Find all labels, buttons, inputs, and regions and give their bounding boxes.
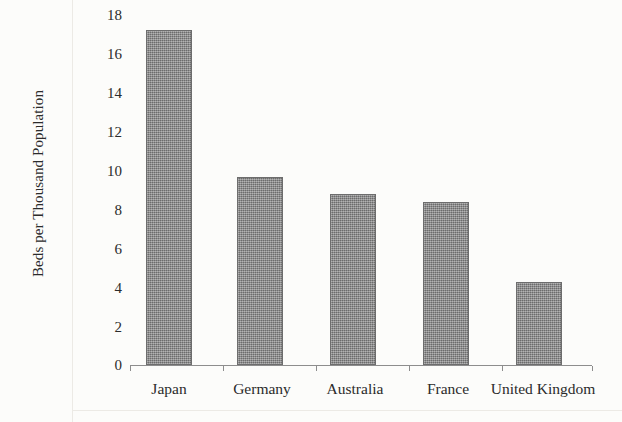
y-tick-label-6: 6 — [86, 241, 122, 258]
x-label-germany: Germany — [233, 380, 291, 398]
y-tick-label-14: 14 — [86, 85, 122, 102]
bar-chart-figure: Beds per Thousand Population 18 16 14 12… — [0, 0, 622, 422]
y-axis-title: Beds per Thousand Population — [30, 34, 47, 334]
y-tick-label-2: 2 — [86, 319, 122, 336]
bar-japan[interactable] — [146, 30, 192, 365]
bar-australia[interactable] — [330, 194, 376, 365]
y-tick-label-10: 10 — [86, 163, 122, 180]
x-axis-category-labels: Japan Germany Australia France United Ki… — [0, 380, 622, 404]
bar-france[interactable] — [423, 202, 469, 365]
x-label-united-kingdom: United Kingdom — [491, 380, 596, 398]
x-label-france: France — [427, 380, 469, 398]
y-tick-label-4: 4 — [86, 280, 122, 297]
x-axis-tick-2 — [316, 366, 317, 371]
x-label-japan: Japan — [151, 380, 186, 398]
y-tick-label-18: 18 — [86, 7, 122, 24]
x-axis-tick-4 — [502, 366, 503, 371]
x-axis-baseline — [130, 365, 592, 366]
x-axis-tick-5 — [592, 366, 593, 371]
x-label-australia: Australia — [327, 380, 384, 398]
bar-germany[interactable] — [237, 177, 283, 365]
y-tick-label-12: 12 — [86, 124, 122, 141]
bar-united-kingdom[interactable] — [516, 282, 562, 365]
x-axis-tick-1 — [223, 366, 224, 371]
page-frame-left-edge — [72, 0, 73, 422]
y-axis-tick-labels: 18 16 14 12 10 8 6 4 2 0 — [82, 0, 122, 422]
page-frame-bottom-edge — [72, 410, 622, 411]
x-axis-tick-3 — [409, 366, 410, 371]
x-axis-tick-0 — [130, 366, 131, 371]
y-tick-label-8: 8 — [86, 202, 122, 219]
y-tick-label-0: 0 — [86, 357, 122, 374]
plot-area — [130, 8, 592, 365]
y-tick-label-16: 16 — [86, 46, 122, 63]
